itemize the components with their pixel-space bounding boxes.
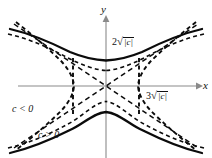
positive-c-label: c > 0	[38, 130, 59, 140]
x-intercept-radicand: |c|	[157, 91, 168, 101]
y-axis-arrow	[103, 15, 110, 22]
x-axis-arrow	[196, 83, 203, 90]
x-intercept-label: 3√|c|	[146, 90, 168, 101]
figure-canvas	[0, 0, 212, 158]
hyperbola-figure: y x 2√|c| 3√|c| c < 0 c > 0	[0, 0, 212, 158]
dashed-outer-upper-left	[8, 34, 106, 71]
x-intercept-radical: √|c|	[151, 90, 168, 101]
y-intercept-radicand: |c|	[123, 37, 134, 47]
y-intercept-radical: √|c|	[117, 36, 134, 47]
dashed-outer-lower-right	[106, 102, 204, 149]
y-axis-label: y	[101, 4, 106, 15]
x-axis-label: x	[203, 80, 208, 91]
y-intercept-label: 2√|c|	[112, 36, 134, 47]
negative-c-label: c < 0	[12, 104, 33, 114]
